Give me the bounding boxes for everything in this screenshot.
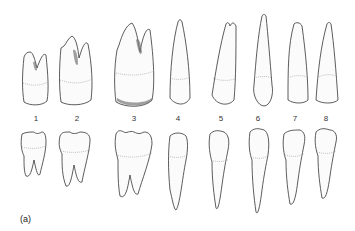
upper-tooth-2 <box>60 36 93 105</box>
panel-label: (a) <box>20 214 31 224</box>
lower-tooth-5 <box>209 131 229 209</box>
tooth-number-7: 7 <box>293 114 297 123</box>
upper-tooth-1 <box>23 52 49 105</box>
tooth-number-2: 2 <box>75 114 79 123</box>
lower-tooth-3 <box>115 131 152 197</box>
tooth-number-3: 3 <box>132 114 136 123</box>
lower-tooth-8 <box>315 129 336 199</box>
dental-figure: 1 2 3 4 5 6 7 8 (a) <box>0 0 355 231</box>
lower-tooth-1 <box>21 132 46 176</box>
upper-tooth-3 <box>115 23 154 106</box>
tooth-number-5: 5 <box>219 114 223 123</box>
tooth-number-1: 1 <box>34 114 38 123</box>
lower-tooth-4 <box>168 133 188 210</box>
upper-tooth-6 <box>254 15 273 107</box>
upper-tooth-5 <box>212 23 236 104</box>
tooth-number-4: 4 <box>176 114 180 123</box>
upper-tooth-4 <box>170 20 190 104</box>
lower-tooth-7 <box>283 130 305 204</box>
tooth-number-6: 6 <box>256 114 260 123</box>
upper-tooth-7 <box>288 23 308 103</box>
lower-tooth-6 <box>249 129 269 213</box>
tooth-number-8: 8 <box>324 114 328 123</box>
lower-tooth-2 <box>59 132 90 186</box>
upper-tooth-8 <box>316 23 338 104</box>
